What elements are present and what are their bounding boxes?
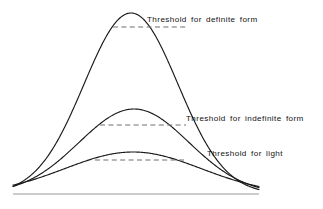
threshold-label-indefinite-form: Threshold for indefinite form <box>186 114 304 123</box>
threshold-labels-group: Threshold for definite form Threshold fo… <box>147 15 304 158</box>
curves-group <box>13 13 259 190</box>
threshold-label-definite-form: Threshold for definite form <box>147 15 258 24</box>
figure-canvas: Threshold for definite form Threshold fo… <box>0 0 323 209</box>
threshold-label-light: Threshold for light <box>207 149 283 158</box>
threshold-lines-group <box>95 27 186 160</box>
curve-definite-form <box>13 13 259 190</box>
threshold-curves-figure: Threshold for definite form Threshold fo… <box>0 0 323 209</box>
